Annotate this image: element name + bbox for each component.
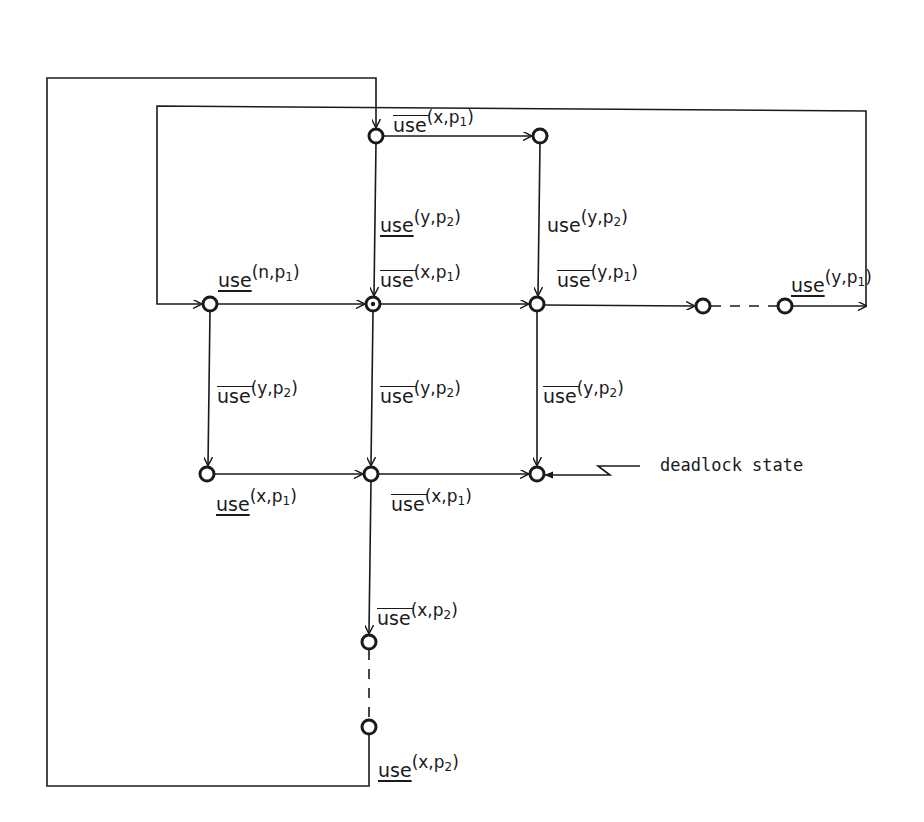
transition-label: use(x,p1) <box>393 116 474 137</box>
deadlock-state-node <box>530 467 544 481</box>
transition-label: use(x,p2) <box>377 609 458 630</box>
state-node <box>530 297 544 311</box>
state-node <box>362 635 376 649</box>
transition-label: use(y,p1) <box>557 271 638 292</box>
transition-label: use(x,p1) <box>380 271 461 292</box>
edge-top-right-down <box>538 143 540 295</box>
edge-top-left-down <box>374 143 376 295</box>
outer-loop-edge <box>47 78 376 786</box>
transition-label: use(x,p2) <box>378 761 459 782</box>
transition-label: use(y,p2) <box>380 216 461 237</box>
edge-bot-mid-down <box>369 481 371 633</box>
state-node <box>778 299 792 313</box>
transition-label: use(x,p1) <box>216 495 297 516</box>
transition-label: use(n,p1) <box>218 271 300 292</box>
transition-label: use(y,p2) <box>217 387 298 408</box>
state-nodes <box>200 129 792 734</box>
edge-left-down <box>208 311 210 465</box>
state-node <box>203 297 217 311</box>
edge-mid-to-right <box>544 305 694 306</box>
state-node <box>696 299 710 313</box>
edge-initial-down <box>371 311 373 465</box>
state-node <box>369 129 383 143</box>
state-node <box>362 720 376 734</box>
transition-label: use(y,p2) <box>543 387 624 408</box>
initial-state-dot <box>371 302 375 306</box>
deadlock-pointer <box>545 466 640 475</box>
transition-label: use(y,p2) <box>380 387 461 408</box>
transition-label: use(y,p1) <box>791 276 872 297</box>
state-node <box>200 467 214 481</box>
transition-label: use(x,p1) <box>391 495 472 516</box>
state-node <box>533 129 547 143</box>
state-node <box>364 467 378 481</box>
deadlock-annotation: deadlock state <box>660 455 803 475</box>
transition-label: use(y,p2) <box>547 216 628 237</box>
